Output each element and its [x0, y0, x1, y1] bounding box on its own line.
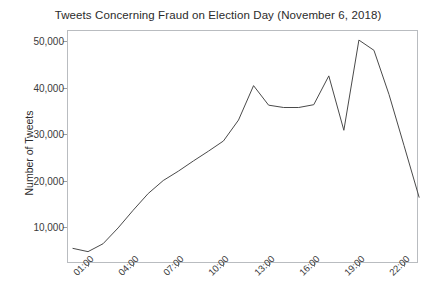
data-series-layer	[0, 0, 436, 304]
series-line-number-of-tweets	[73, 40, 419, 252]
chart-container: Tweets Concerning Fraud on Election Day …	[0, 0, 436, 304]
